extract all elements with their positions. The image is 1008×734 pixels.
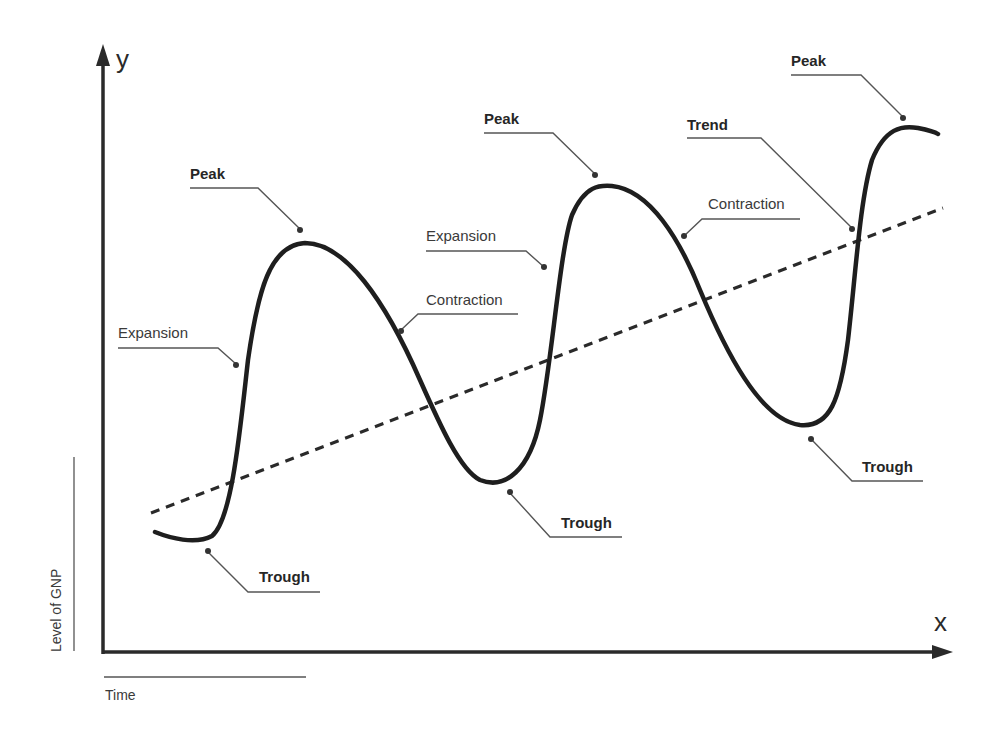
annotation-peak-2: Peak — [484, 110, 598, 178]
annotation-contraction-2: Contraction — [681, 195, 800, 239]
leader-dot — [507, 489, 513, 495]
leader-line — [401, 314, 518, 330]
leader-dot — [808, 436, 814, 442]
annotation-trough-2: Trough — [507, 489, 622, 537]
x-axis: x — [102, 607, 953, 659]
annotation-expansion-2: Expansion — [426, 227, 547, 270]
label-trough-2: Trough — [561, 514, 612, 531]
leader-line — [687, 138, 852, 228]
label-peak-3: Peak — [791, 52, 827, 69]
y-axis-arrow-icon — [96, 44, 110, 66]
label-trend: Trend — [687, 116, 728, 133]
annotation-peak-1: Peak — [190, 165, 303, 233]
y-axis-letter: y — [116, 44, 129, 74]
leader-line — [426, 251, 544, 267]
label-peak-1: Peak — [190, 165, 226, 182]
label-trough-3: Trough — [862, 458, 913, 475]
label-peak-2: Peak — [484, 110, 520, 127]
business-cycle-curve — [155, 127, 938, 540]
leader-dot — [233, 362, 239, 368]
leader-dot — [592, 172, 598, 178]
annotation-trend: Trend — [687, 116, 855, 232]
x-axis-title-group: Time — [104, 677, 306, 703]
leader-dot — [297, 227, 303, 233]
label-contraction-1: Contraction — [426, 291, 503, 308]
y-axis: y — [96, 44, 129, 654]
leader-dot — [849, 226, 855, 232]
leader-line — [484, 133, 595, 174]
y-axis-title-group: Level of GNP — [48, 457, 74, 652]
leader-dot — [398, 328, 404, 334]
leader-line — [190, 188, 300, 229]
label-expansion-2: Expansion — [426, 227, 496, 244]
x-axis-arrow-icon — [932, 645, 953, 659]
label-contraction-2: Contraction — [708, 195, 785, 212]
x-axis-letter: x — [934, 607, 947, 637]
leader-line — [118, 348, 236, 364]
y-axis-title: Level of GNP — [48, 569, 64, 652]
annotation-expansion-1: Expansion — [118, 324, 239, 368]
label-expansion-1: Expansion — [118, 324, 188, 341]
annotation-contraction-1: Contraction — [398, 291, 518, 334]
leader-line — [684, 219, 800, 236]
leader-dot — [541, 264, 547, 270]
label-trough-1: Trough — [259, 568, 310, 585]
annotation-peak-3: Peak — [791, 52, 906, 121]
annotation-trough-3: Trough — [808, 436, 923, 481]
leader-line — [791, 75, 903, 117]
annotation-trough-1: Trough — [205, 548, 320, 592]
leader-dot — [205, 548, 211, 554]
leader-dot — [900, 115, 906, 121]
leader-dot — [681, 233, 687, 239]
x-axis-title: Time — [105, 687, 136, 703]
business-cycle-diagram: y x Level of GNP Time Peak Expansion Tro… — [0, 0, 1008, 734]
